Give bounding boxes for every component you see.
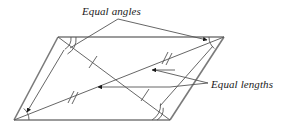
tick-single-upper-left xyxy=(89,56,97,68)
equal-angles-label: Equal angles xyxy=(82,5,141,17)
diagonal-top-left-to-bottom-right xyxy=(58,37,170,120)
equal-lengths-label: Equal lengths xyxy=(211,78,273,90)
leader-equal-angles-to-bottom-right xyxy=(160,46,213,106)
angle-arc-top-right xyxy=(209,37,214,49)
geometry-figure: Equal angles Equal lengths xyxy=(0,0,284,132)
parallelogram-diagonals xyxy=(14,37,224,120)
diagonal-bottom-left-to-top-right xyxy=(14,37,224,120)
tick-single-lower-right xyxy=(141,89,149,101)
angle-arc-bottom-right-outer xyxy=(152,104,161,121)
edge-left xyxy=(14,37,58,120)
leader-equal-lengths-junction-lower xyxy=(170,83,208,87)
leader-equal-angles-to-top-left xyxy=(70,19,118,48)
geometry-diagram-canvas xyxy=(0,0,284,132)
